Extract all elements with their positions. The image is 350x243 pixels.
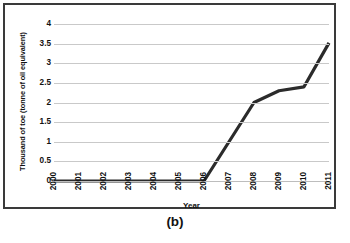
figure-container: Thousand of toe (tonne of oil equivalent… (0, 0, 350, 243)
y-tick-label: 1.5 (27, 118, 51, 126)
gridline (54, 103, 329, 104)
x-axis-title: Year (54, 201, 329, 210)
gridline (54, 161, 329, 162)
figure-caption: (b) (0, 214, 350, 229)
x-tick-label: 2001 (75, 172, 83, 202)
x-tick-label: 2008 (250, 172, 258, 202)
x-tick-label: 2010 (300, 172, 308, 202)
plot-area (54, 24, 329, 181)
x-tick-label: 2004 (150, 172, 158, 202)
gridline (54, 83, 329, 84)
y-tick-label: 2 (27, 98, 51, 106)
gridline (54, 181, 329, 182)
y-tick-label: 0 (27, 177, 51, 185)
x-tick-label: 2003 (125, 172, 133, 202)
y-tick-label: 1 (27, 138, 51, 146)
gridline (54, 142, 329, 143)
y-axis-title: Thousand of toe (tonne of oil equivalent… (18, 17, 27, 187)
y-tick-label: 3.5 (27, 40, 51, 48)
x-tick-label: 2002 (100, 172, 108, 202)
y-tick-label: 2.5 (27, 79, 51, 87)
gridline (54, 122, 329, 123)
y-axis-tick-labels: 00.511.522.533.54 (27, 24, 51, 181)
gridline (54, 24, 329, 25)
gridline (54, 44, 329, 45)
y-tick-label: 4 (27, 20, 51, 28)
x-tick-label: 2006 (200, 172, 208, 202)
x-tick-label: 2011 (325, 172, 333, 202)
x-tick-label: 2000 (50, 172, 58, 202)
chart-frame: Thousand of toe (tonne of oil equivalent… (3, 3, 336, 209)
y-tick-label: 0.5 (27, 157, 51, 165)
y-tick-label: 3 (27, 59, 51, 67)
x-tick-label: 2009 (275, 172, 283, 202)
x-tick-label: 2005 (175, 172, 183, 202)
x-tick-label: 2007 (225, 172, 233, 202)
gridline (54, 63, 329, 64)
